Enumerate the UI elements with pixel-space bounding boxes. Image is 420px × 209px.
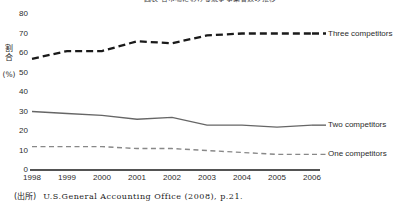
series-line-0 — [32, 34, 312, 59]
series-line-2 — [32, 147, 312, 155]
y-tick-label: 20 — [10, 126, 28, 135]
source-tag: (出所) — [14, 192, 36, 201]
series-label-two-competitors: Two competitors — [328, 120, 386, 129]
x-tick-label: 2001 — [120, 173, 154, 182]
x-tick-label: 2004 — [225, 173, 259, 182]
y-tick-label: 50 — [10, 68, 28, 77]
y-tick-label: 60 — [10, 48, 28, 57]
x-tick-label: 1999 — [50, 173, 84, 182]
x-tick-label: 1998 — [15, 173, 49, 182]
y-tick-label: 30 — [10, 107, 28, 116]
source-text: U.S.General Accounting Office (2008), p.… — [43, 192, 243, 201]
series-label-one-competitors: One competitors — [328, 149, 387, 158]
y-tick-label: 80 — [10, 9, 28, 18]
source-note: (出所)U.S.General Accounting Office (2008)… — [14, 190, 243, 201]
chart-figure: 図表 各市場における競争事業者数の推移 割合 (%) 0102030405060… — [0, 0, 420, 209]
x-tick-label: 2000 — [85, 173, 119, 182]
series-line-1 — [32, 112, 312, 128]
y-tick-label: 10 — [10, 146, 28, 155]
x-tick-label: 2005 — [260, 173, 294, 182]
series-label-three-competitors: Three competitors — [328, 29, 392, 38]
x-tick-label: 2002 — [155, 173, 189, 182]
y-tick-label: 40 — [10, 87, 28, 96]
y-tick-label: 70 — [10, 29, 28, 38]
series-layer — [32, 34, 326, 155]
x-tick-label: 2006 — [295, 173, 329, 182]
x-tick-label: 2003 — [190, 173, 224, 182]
